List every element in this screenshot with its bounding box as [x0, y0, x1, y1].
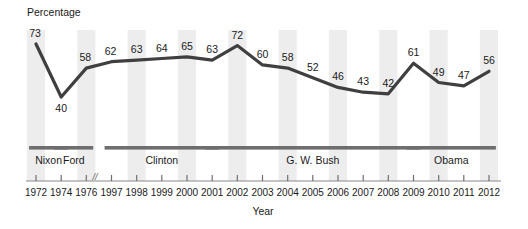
president-label: Nixon — [35, 154, 62, 166]
x-axis-tick-label: 2008 — [377, 187, 400, 198]
x-axis-tick-label: 2000 — [176, 187, 199, 198]
background-band — [228, 30, 246, 181]
chart-container: 73405862636465637260585246434261494756 1… — [0, 0, 528, 229]
president-term-bar — [54, 146, 93, 150]
president-term-bar — [205, 146, 420, 150]
x-axis-tick-label: 1976 — [75, 187, 98, 198]
x-axis-tick-label: 2005 — [302, 187, 325, 198]
data-value-label: 58 — [79, 51, 91, 63]
president-labels: NixonFordClintonG. W. BushObama — [35, 154, 469, 166]
x-axis-tick-label: 2012 — [478, 187, 501, 198]
x-axis-tick-label: 2004 — [277, 187, 300, 198]
data-value-label: 63 — [206, 43, 218, 55]
x-axis-tick-label: 2002 — [226, 187, 249, 198]
x-axis-tick-label: 1974 — [50, 187, 73, 198]
data-value-label: 47 — [458, 69, 470, 81]
x-axis-tick-label: 1998 — [126, 187, 149, 198]
president-term-bar — [407, 146, 496, 150]
data-value-label: 52 — [307, 61, 319, 73]
president-term-bar — [105, 146, 220, 150]
president-label: Obama — [434, 154, 469, 166]
x-axis-ticks — [36, 175, 489, 181]
data-value-label: 64 — [156, 42, 168, 54]
x-axis-tick-label: 2010 — [428, 187, 451, 198]
x-axis-tick-label: 1972 — [25, 187, 48, 198]
x-axis-tick-label: 2007 — [352, 187, 375, 198]
x-axis-tick-label: 2003 — [251, 187, 274, 198]
data-value-label: 65 — [181, 40, 193, 52]
data-value-label: 43 — [357, 75, 369, 87]
background-band — [178, 30, 196, 181]
data-value-label: 60 — [257, 48, 269, 60]
data-value-label: 49 — [433, 66, 445, 78]
data-value-label: 56 — [483, 54, 495, 66]
president-term-bars — [29, 146, 496, 150]
president-label: Ford — [63, 154, 85, 166]
x-axis-tick-label: 2011 — [453, 187, 475, 198]
x-axis-title: Year — [252, 205, 274, 217]
y-axis-title: Percentage — [27, 6, 81, 18]
data-value-label: 62 — [105, 45, 117, 57]
x-axis-tick-label: 1999 — [151, 187, 174, 198]
x-axis-tick-label: 2006 — [327, 187, 350, 198]
background-band — [480, 30, 498, 181]
x-axis-tick-label: 1997 — [100, 187, 123, 198]
data-value-label: 63 — [131, 43, 143, 55]
data-value-label: 46 — [332, 70, 344, 82]
data-value-label: 72 — [231, 29, 243, 41]
x-axis-tick-label: 2001 — [201, 187, 224, 198]
data-value-label: 42 — [382, 77, 394, 89]
data-value-label: 40 — [55, 102, 67, 114]
line-chart: 73405862636465637260585246434261494756 1… — [0, 0, 528, 229]
president-label: G. W. Bush — [286, 154, 339, 166]
data-value-label: 61 — [408, 46, 420, 58]
data-value-label: 73 — [29, 27, 41, 39]
background-band — [379, 30, 397, 181]
data-value-label: 58 — [282, 51, 294, 63]
x-axis-tick-label: 2009 — [402, 187, 425, 198]
x-axis-tick-labels: 1972197419761997199819992000200120022003… — [25, 187, 501, 198]
president-label: Clinton — [145, 154, 178, 166]
